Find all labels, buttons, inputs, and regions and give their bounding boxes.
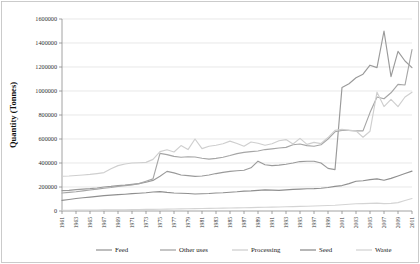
x-axis-tick-label: 1983 xyxy=(213,217,219,228)
legend-label-processing: Processing xyxy=(251,246,281,253)
y-axis-tick-label: 400000 xyxy=(38,159,57,166)
x-axis-tick-label: 1967 xyxy=(101,217,107,228)
x-axis-tick-label: 1997 xyxy=(311,217,317,228)
x-axis-tick-label: 1961 xyxy=(59,217,65,228)
x-axis-tick-label: 1969 xyxy=(115,217,121,228)
x-axis-tick-label: 1999 xyxy=(325,217,331,228)
x-axis-tick-label: 1989 xyxy=(255,217,261,228)
legend-label-seed: Seed xyxy=(319,246,333,253)
x-axis-tick-label: 1977 xyxy=(171,217,177,228)
x-axis-tick-label: 2009 xyxy=(395,217,401,228)
y-axis-tick-label: 1000000 xyxy=(35,87,57,94)
x-axis-tick-label: 1975 xyxy=(157,217,163,228)
x-axis-tick-label: 2001 xyxy=(339,217,345,228)
y-axis-tick-label: 1200000 xyxy=(35,63,57,70)
legend-label-waste: Waste xyxy=(375,246,391,253)
x-axis-tick-label: 2011 xyxy=(409,217,415,228)
series-line-waste xyxy=(62,199,412,211)
line-chart: 0200000400000600000800000100000012000001… xyxy=(0,0,420,264)
y-axis-tick-label: 1400000 xyxy=(35,39,57,46)
x-axis-tick-label: 1963 xyxy=(73,217,79,228)
x-axis-tick-label: 1985 xyxy=(227,217,233,228)
x-axis-tick-label: 1987 xyxy=(241,217,247,228)
series-line-other-uses xyxy=(62,50,412,193)
x-axis-tick-label: 1991 xyxy=(269,217,275,228)
x-axis-tick-label: 1993 xyxy=(283,217,289,228)
chart-canvas: 0200000400000600000800000100000012000001… xyxy=(0,0,420,264)
y-axis-tick-label: 0 xyxy=(54,207,57,214)
x-axis-tick-label: 1995 xyxy=(297,217,303,228)
y-axis-tick-label: 1600000 xyxy=(35,15,57,22)
x-axis-tick-label: 2007 xyxy=(381,217,387,228)
y-axis-title: Quantity (Tonnes) xyxy=(8,82,18,148)
y-axis-tick-label: 600000 xyxy=(38,135,57,142)
legend-label-other-uses: Other uses xyxy=(179,246,208,253)
y-axis-tick-label: 800000 xyxy=(38,111,57,118)
x-axis-tick-label: 1981 xyxy=(199,217,205,228)
y-axis-tick-label: 200000 xyxy=(38,183,57,190)
series-line-processing xyxy=(62,92,412,176)
legend-label-feed: Feed xyxy=(115,246,129,253)
x-axis-tick-label: 1965 xyxy=(87,217,93,228)
x-axis-tick-label: 2005 xyxy=(367,217,373,228)
x-axis-tick-label: 1971 xyxy=(129,217,135,228)
x-axis-tick-label: 2003 xyxy=(353,217,359,228)
x-axis-tick-label: 1979 xyxy=(185,217,191,228)
x-axis-tick-label: 1973 xyxy=(143,217,149,228)
